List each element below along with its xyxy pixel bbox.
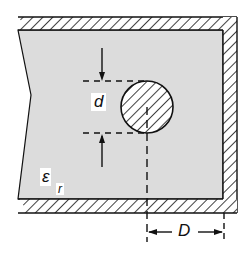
diameter-label: d bbox=[91, 93, 106, 111]
top-wall bbox=[18, 17, 237, 30]
bottom-wall bbox=[18, 199, 237, 213]
right-wall bbox=[223, 17, 237, 213]
distance-label: D bbox=[178, 222, 190, 240]
diagram-canvas bbox=[0, 0, 250, 255]
permittivity-label: ε bbox=[40, 168, 51, 186]
permittivity-subscript: r bbox=[56, 183, 64, 195]
